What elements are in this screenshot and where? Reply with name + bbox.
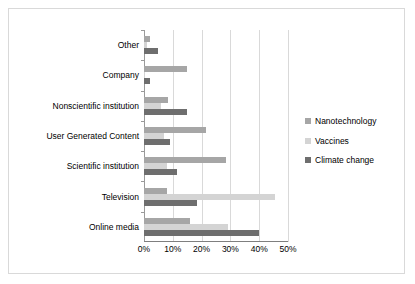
x-axis-tick-label: 10%	[164, 245, 181, 254]
y-axis-category-label: Company	[103, 71, 139, 80]
x-axis-tick-label: 50%	[279, 245, 296, 254]
bar-groups: Online mediaTelevisionScientific institu…	[144, 30, 288, 242]
bar	[144, 139, 170, 145]
legend-label: Nanotechnology	[315, 117, 376, 126]
bar	[144, 200, 197, 206]
x-axis-tick-label: 30%	[222, 245, 239, 254]
bar-group: Online media	[144, 212, 288, 242]
y-axis-category-label: User Generated Content	[46, 132, 139, 141]
chart-container: Online mediaTelevisionScientific institu…	[8, 8, 405, 274]
plot-area: Online mediaTelevisionScientific institu…	[144, 30, 288, 242]
legend-item: Vaccines	[305, 137, 376, 146]
y-axis-tick	[141, 30, 144, 31]
bar-group: User Generated Content	[144, 121, 288, 151]
y-axis-tick	[141, 151, 144, 152]
gridline	[288, 30, 289, 242]
legend-item: Climate change	[305, 156, 376, 165]
bar	[144, 230, 259, 236]
y-axis-tick	[141, 212, 144, 213]
bar	[144, 66, 187, 72]
y-axis-tick	[141, 181, 144, 182]
bar-group: Company	[144, 60, 288, 90]
chart-legend: NanotechnologyVaccinesClimate change	[305, 117, 376, 176]
bar-group: Television	[144, 181, 288, 211]
y-axis-tick	[141, 121, 144, 122]
y-axis-category-label: Scientific institution	[67, 162, 139, 171]
legend-item: Nanotechnology	[305, 117, 376, 126]
y-axis-category-label: Television	[102, 192, 139, 201]
bar	[144, 78, 150, 84]
x-axis-tick-labels: 0%10%20%30%40%50%	[144, 245, 288, 259]
bar-group: Nonscientific institution	[144, 91, 288, 121]
legend-swatch-icon	[305, 157, 311, 163]
y-axis-category-label: Other	[118, 41, 139, 50]
x-axis-tick-label: 20%	[193, 245, 210, 254]
y-axis-tick	[141, 60, 144, 61]
legend-label: Climate change	[315, 156, 374, 165]
bar	[144, 48, 158, 54]
bar-group: Scientific institution	[144, 151, 288, 181]
bar	[144, 169, 177, 175]
y-axis-category-label: Nonscientific institution	[53, 101, 139, 110]
legend-label: Vaccines	[315, 137, 349, 146]
bar	[144, 109, 187, 115]
x-axis-tick-label: 0%	[138, 245, 150, 254]
x-axis-line	[144, 241, 288, 242]
legend-swatch-icon	[305, 118, 311, 124]
x-axis-tick-label: 40%	[251, 245, 268, 254]
bar-group: Other	[144, 30, 288, 60]
y-axis-category-label: Online media	[89, 223, 139, 232]
y-axis-tick	[141, 91, 144, 92]
legend-swatch-icon	[305, 138, 311, 144]
